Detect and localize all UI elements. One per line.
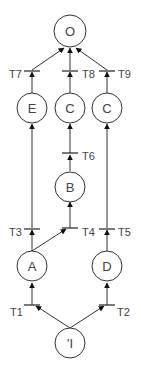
transition-label-t4: T4 bbox=[82, 226, 95, 238]
petri-net-diagram: T1 T2 T3 T4 T5 T6 T7 T8 T9 O E C C B A D… bbox=[0, 0, 141, 378]
transition-label-t7: T7 bbox=[9, 68, 22, 80]
arc-a-t4 bbox=[32, 229, 66, 251]
transition-label-t5: T5 bbox=[118, 226, 131, 238]
arc-t7-o bbox=[32, 48, 64, 70]
arc-i-t1 bbox=[36, 306, 70, 328]
transition-label-t3: T3 bbox=[9, 226, 22, 238]
place-label-d: D bbox=[102, 259, 111, 274]
transition-label-t8: T8 bbox=[82, 68, 95, 80]
place-label-a: A bbox=[28, 259, 37, 274]
arc-i-t2 bbox=[70, 306, 104, 328]
place-label-c2: C bbox=[102, 101, 111, 116]
transition-label-t9: T9 bbox=[118, 68, 131, 80]
transition-label-t6: T6 bbox=[82, 150, 95, 162]
place-label-o: O bbox=[65, 24, 75, 39]
place-label-b: B bbox=[66, 180, 75, 195]
place-label-e: E bbox=[28, 101, 37, 116]
transition-label-t2: T2 bbox=[117, 306, 130, 318]
arc-t9-o bbox=[76, 48, 107, 70]
place-label-i: 'I bbox=[67, 336, 73, 351]
transition-label-t1: T1 bbox=[10, 306, 23, 318]
place-label-c1: C bbox=[65, 101, 74, 116]
